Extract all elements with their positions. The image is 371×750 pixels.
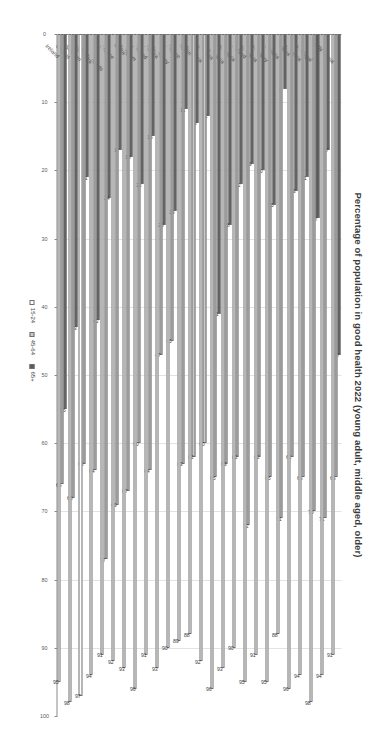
bar-value-label: 89 <box>173 640 179 645</box>
bar-value-label: 90 <box>228 647 234 652</box>
bar-45-64 <box>279 34 282 518</box>
bar-value-label: 94 <box>315 674 321 679</box>
bar-15-24 <box>188 34 191 634</box>
bar-45-64 <box>137 34 140 443</box>
bar-45-64 <box>202 34 205 443</box>
bar-15-24 <box>68 34 71 702</box>
bar-value-label: 91 <box>326 654 332 659</box>
bar-15-24 <box>166 34 169 648</box>
bar-value-label: 94 <box>85 674 91 679</box>
bar-65plus <box>118 34 121 150</box>
x-axis-tick-label: 90 <box>37 645 51 651</box>
bar-65plus <box>228 34 231 225</box>
bar-45-64 <box>181 34 184 464</box>
bar-value-label: 93 <box>151 667 157 672</box>
bar-15-24 <box>254 34 257 655</box>
bar-value-label: 97 <box>74 694 80 699</box>
chart-legend: 15-24 45-64 65+ <box>29 0 35 682</box>
bar-15-24 <box>210 34 213 689</box>
bar-15-24 <box>232 34 235 648</box>
bar-65plus <box>206 34 209 116</box>
bar-15-24 <box>309 34 312 702</box>
bar-15-24 <box>133 34 136 689</box>
x-axis-tick-label: 30 <box>37 236 51 242</box>
x-axis-tick-label: 80 <box>37 577 51 583</box>
bar-65plus <box>283 34 286 89</box>
rotated-figure-wrapper: Percentage of population in good health … <box>0 0 371 750</box>
bar-65plus <box>74 34 77 327</box>
bar-65plus <box>239 34 242 184</box>
bar-45-64 <box>224 34 227 464</box>
bar-45-64 <box>115 34 118 505</box>
bar-15-24 <box>122 34 125 668</box>
bar-65plus <box>272 34 275 205</box>
bar-15-24 <box>89 34 92 675</box>
bar-45-64 <box>235 34 238 457</box>
bar-65plus <box>162 34 165 225</box>
bar-45-64 <box>213 34 216 477</box>
bar-45-64 <box>170 34 173 341</box>
bar-15-24 <box>298 34 301 675</box>
bar-65plus <box>250 34 253 164</box>
bar-value-label: 96 <box>129 688 135 693</box>
bar-65plus <box>140 34 143 184</box>
bar-value-label: 93 <box>118 667 124 672</box>
bar-15-24 <box>78 34 81 696</box>
x-axis-tick-label: 20 <box>37 167 51 173</box>
bar-15-24 <box>100 34 103 655</box>
bar-15-24 <box>177 34 180 641</box>
bar-45-64 <box>323 34 326 518</box>
chart-figure: Percentage of population in good health … <box>0 0 371 750</box>
bar-15-24 <box>155 34 158 668</box>
bar-15-24 <box>276 34 279 634</box>
bar-65plus <box>217 34 220 314</box>
bar-65plus <box>63 34 66 409</box>
x-axis-tick-label: 60 <box>37 440 51 446</box>
bar-45-64 <box>104 34 107 559</box>
x-axis-tick-label: 100 <box>37 713 51 719</box>
bar-45-64 <box>82 34 85 464</box>
legend-label-4564: 45-64 <box>29 340 35 355</box>
bar-value-label: 96 <box>282 688 288 693</box>
bar-65plus <box>129 34 132 157</box>
x-axis-tick-label: 40 <box>37 304 51 310</box>
bar-45-64 <box>71 34 74 498</box>
bar-45-64 <box>257 34 260 457</box>
bar-45-64 <box>148 34 151 470</box>
bar-45-64 <box>60 34 63 484</box>
bar-45-64 <box>192 34 195 457</box>
bar-45-64 <box>268 34 271 477</box>
bar-45-64 <box>126 34 129 491</box>
bar-value-label: 94 <box>293 674 299 679</box>
bar-45-64 <box>290 34 293 457</box>
bar-value-label: 98 <box>63 701 69 706</box>
bar-value-label: 91 <box>96 654 102 659</box>
plot-area: 1009080706050403020100476591Romania17719… <box>56 34 341 716</box>
bar-65plus <box>173 34 176 211</box>
bar-value-label: 91 <box>250 654 256 659</box>
bar-65plus <box>294 34 297 191</box>
bar-15-24 <box>111 34 114 661</box>
page-title: Percentage of population in good health … <box>352 0 363 750</box>
x-axis-tick-label: 70 <box>37 508 51 514</box>
bar-65plus <box>261 34 264 170</box>
bar-45-64 <box>312 34 315 511</box>
x-axis-tick <box>54 716 57 717</box>
bar-value-label: 90 <box>162 647 168 652</box>
bar-value-label: 92 <box>107 660 113 665</box>
bar-65plus <box>85 34 88 177</box>
x-axis-tick-label: 10 <box>37 99 51 105</box>
legend-label-65plus: 65+ <box>29 372 35 382</box>
bar-65plus <box>151 34 154 136</box>
bar-value-label: 92 <box>195 660 201 665</box>
bar-45-64 <box>159 34 162 355</box>
bar-value-label: 88 <box>272 633 278 638</box>
bar-65plus <box>96 34 99 320</box>
legend-label-1524: 15-24 <box>29 308 35 323</box>
bar-15-24 <box>320 34 323 675</box>
bar-65plus <box>326 34 329 150</box>
bar-15-24 <box>287 34 290 689</box>
bar-15-24 <box>144 34 147 655</box>
bar-15-24 <box>57 34 60 682</box>
legend-item-1524: 15-24 <box>29 300 35 323</box>
